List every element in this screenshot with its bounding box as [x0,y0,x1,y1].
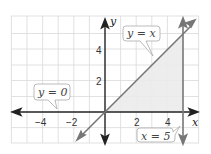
label-x-equals-5: x = 5 [141,130,170,143]
y-tick-label: 2 [96,76,102,87]
y-axis [102,19,109,144]
label-y-equals-0: y = 0 [37,86,67,99]
callout-y-equals-x: y = x [123,26,160,56]
x-tick-label: −4 [35,117,47,128]
x-tick-label: 2 [134,117,140,128]
x-tick-label: −2 [66,117,78,128]
x-axis-label: x [192,116,199,129]
callout-x-equals-5: x = 5 [137,126,180,143]
y-tick-label: 4 [96,45,102,56]
x-tick-label: 4 [165,117,171,128]
callout-y-equals-0: y = 0 [34,84,70,109]
label-y-equals-x: y = x [126,27,156,40]
coordinate-graph: −4 −2 2 4 2 4 x y y = x y = 0 x = 5 [0,0,211,154]
y-axis-label: y [109,15,117,28]
